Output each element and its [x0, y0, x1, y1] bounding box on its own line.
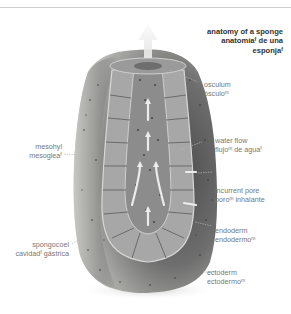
- osculum-en: osculum: [204, 80, 231, 89]
- ectoderm-en: ectoderm: [207, 268, 245, 277]
- water-flow-en: water flow: [215, 136, 262, 145]
- label-water-flow: water flow flujoᵐ de aguaᶠ: [215, 136, 262, 154]
- label-endoderm: endoderm endodermoᵐ: [215, 226, 255, 244]
- water-flow-es: flujoᵐ de aguaᶠ: [215, 145, 262, 154]
- incurrent-pore-en: incurrent pore: [215, 186, 265, 195]
- spongocoel-en: spongocoel: [15, 240, 69, 249]
- label-osculum: osculum ósculoᵐ: [204, 80, 231, 98]
- incurrent-pore-es: poroᵐ inhalante: [215, 195, 265, 204]
- mesohyl-es: mesogleaᶠ: [29, 151, 62, 160]
- label-incurrent-pore: incurrent pore poroᵐ inhalante: [215, 186, 265, 204]
- spongocoel-es: cavidadᶠ gástrica: [15, 249, 69, 258]
- endoderm-en: endoderm: [215, 226, 255, 235]
- ectoderm-es: ectodermoᵐ: [207, 277, 245, 286]
- mesohyl-en: mesohyl: [29, 142, 62, 151]
- osculum-opening: [134, 62, 162, 70]
- label-ectoderm: ectoderm ectodermoᵐ: [207, 268, 245, 286]
- osculum-es: ósculoᵐ: [204, 89, 231, 98]
- label-spongocoel: spongocoel cavidadᶠ gástrica: [15, 240, 69, 258]
- endoderm-es: endodermoᵐ: [215, 235, 255, 244]
- label-mesohyl: mesohyl mesogleaᶠ: [29, 142, 62, 160]
